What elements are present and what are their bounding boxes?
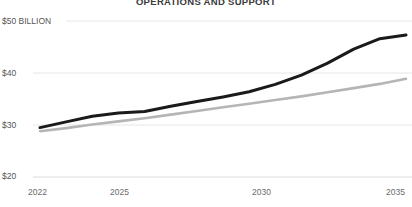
chart-plot-area (0, 0, 412, 207)
series-line-dark (40, 35, 406, 128)
x-axis-label-2025: 2025 (110, 187, 129, 197)
y-axis-label-50: $50 BILLION (2, 16, 51, 26)
x-axis-label-2022: 2022 (28, 187, 47, 197)
series-line-light (40, 79, 406, 132)
y-axis-label-20: $20 (2, 171, 16, 181)
y-axis-label-40: $40 (2, 68, 16, 78)
gridlines (33, 21, 412, 177)
chart-container: OPERATIONS AND SUPPORT $50 BILLION $40 $… (0, 0, 412, 207)
y-axis-label-30: $30 (2, 120, 16, 130)
x-axis-label-2035: 2035 (386, 187, 405, 197)
x-axis-label-2030: 2030 (252, 187, 271, 197)
